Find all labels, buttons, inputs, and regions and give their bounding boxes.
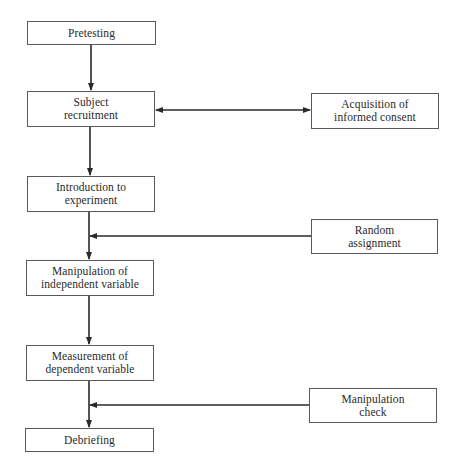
node-label: Introduction to experiment bbox=[56, 181, 126, 207]
node-pretesting: Pretesting bbox=[27, 21, 156, 45]
node-manipulation-check: Manipulation check bbox=[309, 388, 437, 423]
node-introduction-to-experiment: Introduction to experiment bbox=[27, 176, 155, 212]
node-label: Manipulation check bbox=[341, 393, 404, 419]
node-manipulation-of-independent-variable: Manipulation of independent variable bbox=[26, 260, 154, 296]
node-label: Pretesting bbox=[68, 27, 115, 40]
node-label: Acquisition of informed consent bbox=[334, 98, 416, 124]
node-debriefing: Debriefing bbox=[25, 428, 154, 452]
node-measurement-of-dependent-variable: Measurement of dependent variable bbox=[26, 345, 154, 381]
flowchart-canvas: Pretesting Subject recruitment Introduct… bbox=[0, 0, 464, 468]
node-label: Measurement of dependent variable bbox=[46, 350, 135, 376]
node-label: Debriefing bbox=[64, 434, 115, 447]
node-subject-recruitment: Subject recruitment bbox=[27, 91, 155, 127]
node-label: Subject recruitment bbox=[64, 96, 118, 122]
node-label: Random assignment bbox=[348, 224, 401, 250]
node-label: Manipulation of independent variable bbox=[41, 265, 139, 291]
node-acquisition-of-informed-consent: Acquisition of informed consent bbox=[311, 93, 439, 129]
node-random-assignment: Random assignment bbox=[311, 219, 438, 254]
